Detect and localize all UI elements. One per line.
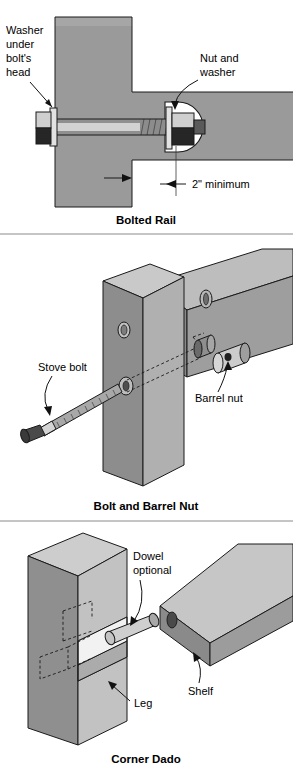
label-line: Nut and [200, 52, 239, 64]
label-washer-under-bolt-head: Washer under bolt's head [6, 24, 52, 107]
figure-corner-dado: Dowel optional Leg Shelf Corner Dado [0, 523, 293, 775]
shelf-part [160, 544, 293, 666]
label-line: Leg [134, 697, 152, 709]
bolt-hole-upper [118, 322, 130, 338]
label-line: head [6, 66, 30, 78]
figure-bolt-and-barrel-nut: Stove bolt Barrel nut Bolt and Barrel Nu… [0, 236, 293, 521]
bolt-head-washer [36, 108, 57, 146]
figure-caption: Bolt and Barrel Nut [94, 500, 199, 512]
label-line: Washer [6, 24, 44, 36]
figure-bolted-rail: Washer under bolt's head Nut and washer … [0, 0, 293, 235]
rail-screw-hole [200, 290, 212, 308]
figure-caption: Corner Dado [111, 753, 181, 765]
illustration-sheet: Washer under bolt's head Nut and washer … [0, 0, 293, 775]
label-line: Barrel nut [195, 392, 243, 404]
label-line: washer [199, 66, 236, 78]
label-line: Shelf [188, 685, 214, 697]
dimension-label: 2" minimum [192, 178, 250, 190]
label-line: under [6, 38, 34, 50]
label-line: bolt's [6, 52, 32, 64]
label-line: Dowel [133, 550, 164, 562]
figure-caption: Bolted Rail [116, 214, 176, 226]
label-line: optional [133, 564, 172, 576]
label-line: Stove bolt [38, 361, 87, 373]
carriage-bolt [45, 119, 176, 135]
post-part [103, 264, 184, 486]
